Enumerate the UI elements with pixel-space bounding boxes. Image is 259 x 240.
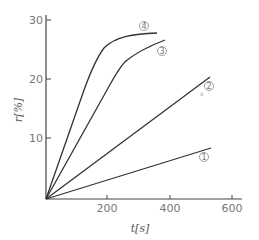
svg-text:4: 4: [141, 22, 146, 31]
y-tick-label-20: 20: [29, 73, 43, 86]
chart: 30 20 10 200 400 600 t[s] r[%] 1 2 3 4 x: [0, 0, 259, 240]
curve-2: [46, 77, 210, 199]
curve-label-4: 4: [140, 22, 149, 32]
x-tick-label-200: 200: [97, 202, 118, 215]
curve-3: [46, 40, 165, 199]
curve-label-1: 1: [200, 153, 209, 163]
svg-text:3: 3: [159, 47, 164, 56]
svg-text:1: 1: [201, 153, 206, 162]
x-axis-label: t[s]: [131, 222, 150, 235]
x-tick-label-600: 600: [222, 202, 243, 215]
y-axis-label: r[%]: [12, 97, 25, 122]
stray-mark: x: [200, 90, 204, 97]
x-tick-label-400: 400: [160, 202, 181, 215]
curve-4: [46, 33, 157, 199]
y-tick-label-10: 10: [29, 132, 43, 145]
svg-text:2: 2: [206, 82, 211, 91]
curve-label-2: 2: [205, 82, 214, 92]
y-tick-label-30: 30: [29, 14, 43, 27]
curve-label-3: 3: [158, 47, 167, 57]
